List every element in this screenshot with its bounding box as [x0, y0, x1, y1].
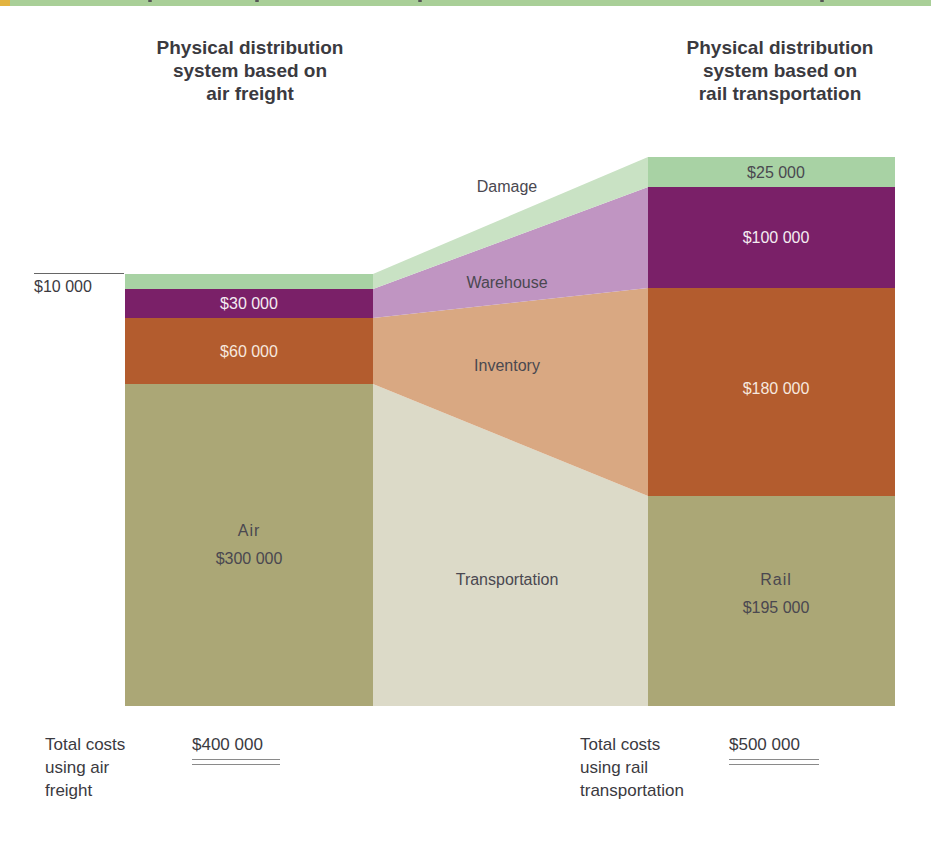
- left-bar-damage: [125, 274, 373, 289]
- right-total-value: $500 000: [729, 733, 800, 756]
- total-label-line: Total costs: [45, 733, 125, 756]
- total-label-line: using air: [45, 756, 125, 779]
- left-total-underline: [192, 759, 280, 760]
- left-total-underline-2: [192, 764, 280, 765]
- total-label-line: using rail: [580, 756, 684, 779]
- right-total-label: Total costs using rail transportation: [580, 733, 684, 802]
- left-total-label: Total costs using air freight: [45, 733, 125, 802]
- left-total-value: $400 000: [192, 733, 263, 756]
- right-transport-value: $195 000: [743, 599, 810, 616]
- left-inventory-value: $60 000: [220, 343, 278, 360]
- warehouse-label: Warehouse: [466, 274, 547, 291]
- left-bar-transport: [125, 384, 373, 706]
- right-inventory-value: $180 000: [743, 380, 810, 397]
- right-total-underline: [729, 759, 819, 760]
- damage-label: Damage: [477, 178, 538, 195]
- transportation-label: Transportation: [456, 571, 559, 588]
- total-label-line: Total costs: [580, 733, 684, 756]
- left-transport-value: $300 000: [216, 550, 283, 567]
- left-transport-name: Air: [238, 522, 261, 539]
- left-warehouse-value: $30 000: [220, 295, 278, 312]
- right-damage-value: $25 000: [747, 164, 805, 181]
- right-warehouse-value: $100 000: [743, 229, 810, 246]
- inventory-label: Inventory: [474, 357, 540, 374]
- right-total-underline-2: [729, 764, 819, 765]
- right-transport-name: Rail: [760, 571, 792, 588]
- stacked-bar-chart: $30 000 $60 000 Air $300 000 Damage Ware…: [0, 0, 931, 847]
- total-label-line: transportation: [580, 779, 684, 802]
- total-label-line: freight: [45, 779, 125, 802]
